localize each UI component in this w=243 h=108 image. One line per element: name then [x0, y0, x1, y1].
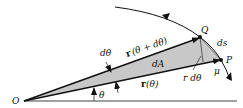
curve-arrow-icon-lower [226, 72, 232, 81]
label-mu: μ [214, 66, 220, 76]
label-dA: dA [152, 59, 165, 69]
label-r-dtheta: r dθ [183, 73, 202, 83]
label-r-theta: (θ) [146, 79, 159, 89]
label-theta: θ [99, 90, 105, 100]
label-origin: O [12, 96, 20, 106]
point-q [198, 35, 202, 39]
label-q: Q [201, 25, 209, 35]
label-ds: ds [217, 38, 228, 48]
polar-area-diagram: O Q P ds dθ r (θ + dθ) dA r (θ) r dθ μ θ [0, 0, 243, 108]
curve-arrow-icon [162, 13, 170, 20]
label-dtheta: dθ [100, 48, 112, 58]
theta-arrow-right [116, 82, 118, 93]
shaded-area-dA [24, 37, 221, 101]
point-p [219, 58, 223, 62]
label-p: P [225, 55, 233, 65]
